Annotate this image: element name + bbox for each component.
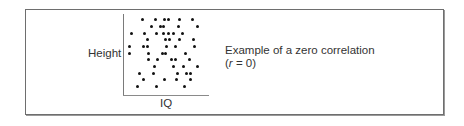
data-point [176,72,179,75]
data-point [170,58,173,61]
data-point [147,58,150,61]
data-point [174,58,177,61]
data-point [164,38,167,41]
caption-r-value: (r = 0) [225,57,375,70]
data-point [185,72,188,75]
data-point [193,45,196,48]
data-point [155,85,158,88]
data-point [188,58,191,61]
data-point [172,32,175,35]
data-point [163,78,166,81]
data-point [130,32,133,35]
data-point [196,25,199,28]
data-point [146,45,149,48]
data-point [184,52,187,55]
data-point [175,78,178,81]
data-point [183,85,186,88]
data-point [162,25,165,28]
data-point [178,38,181,41]
data-point [168,38,171,41]
data-point [167,32,170,35]
data-point [155,32,158,35]
data-point [143,32,146,35]
data-point [163,18,166,21]
data-point [128,52,131,55]
data-point [128,45,131,48]
data-point [136,85,139,88]
data-point [192,38,195,41]
data-point [177,25,180,28]
data-point [156,58,159,61]
data-point [162,32,165,35]
data-point [142,45,145,48]
data-point [174,45,177,48]
data-point [196,65,199,68]
data-point [142,78,145,81]
data-point [167,18,170,21]
data-point [150,25,153,28]
data-point [147,52,150,55]
data-point [191,18,194,21]
caption-title: Example of a zero correlation [225,44,375,57]
caption: Example of a zero correlation (r = 0) [225,44,375,70]
data-point [165,45,168,48]
data-point [178,18,181,21]
data-point [164,52,167,55]
data-point [172,65,175,68]
data-point [146,38,149,41]
data-point [189,72,192,75]
data-point [152,72,155,75]
data-point [181,32,184,35]
data-point [138,72,141,75]
data-point [154,18,157,21]
data-point [182,65,185,68]
data-point [189,78,192,81]
data-point [141,18,144,21]
data-point [153,65,156,68]
